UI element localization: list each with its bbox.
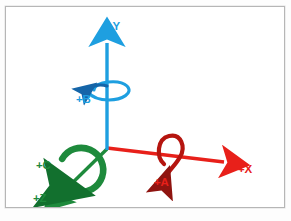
label-plus-z: +Z <box>33 193 46 205</box>
label-plus-x: +X <box>238 164 252 176</box>
label-plus-b: +B <box>76 94 91 106</box>
x-axis-arrow <box>107 148 224 162</box>
figure-page: +Y +B +X +A +C +Z <box>0 0 291 221</box>
label-plus-a: +A <box>154 177 169 189</box>
label-plus-c: +C <box>36 160 51 172</box>
diagram-frame: +Y +B +X +A +C +Z <box>5 6 285 208</box>
label-plus-y: +Y <box>106 21 120 33</box>
coordinate-axes-diagram <box>6 7 284 207</box>
